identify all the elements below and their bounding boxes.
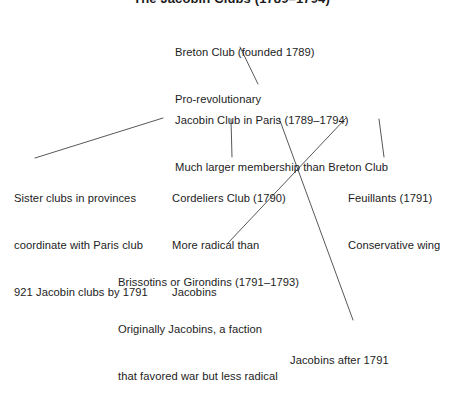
node-line: Jacobin Club in Paris (1789–1794) bbox=[175, 113, 388, 129]
node-line: Sister clubs in provinces bbox=[14, 191, 148, 207]
node-line: Cordeliers Club (1790) bbox=[172, 191, 286, 207]
node-line: Conservative wing bbox=[348, 238, 440, 254]
page-title: The Jacobin Clubs (1789–1794) bbox=[0, 0, 463, 6]
node-line: Brissotins or Girondins (1791–1793) bbox=[118, 275, 299, 291]
node-line: Breton Club (founded 1789) bbox=[175, 45, 315, 61]
node-line: Feuillants (1791) bbox=[348, 191, 440, 207]
node-feuillants: Feuillants (1791) Conservative wing bbox=[348, 160, 440, 285]
node-jacobins-after-1791: Jacobins after 1791 After breakaway of F… bbox=[230, 322, 425, 396]
diagram-canvas: The Jacobin Clubs (1789–1794) Breton Clu… bbox=[0, 0, 463, 396]
connector-jacobin-to-sister-clubs bbox=[35, 118, 163, 158]
node-line: Jacobins after 1791 bbox=[230, 353, 425, 369]
